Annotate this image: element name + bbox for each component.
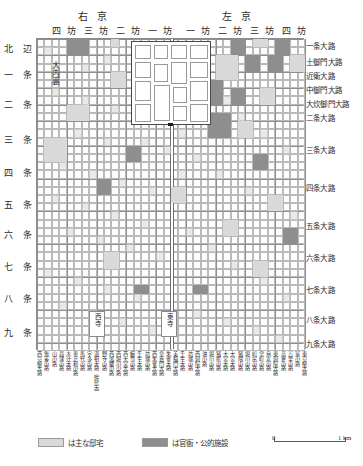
right-street-label-4: 大炊御門大路: [306, 98, 349, 109]
daidairi-compound-box: [190, 62, 208, 78]
bottom-street-label-26: 大宮大路: [223, 351, 228, 370]
legend-swatch-government: [142, 438, 168, 447]
bottom-street-label-13: 櫛笥小路: [130, 351, 135, 370]
bottom-street-label-29: 堀川小路: [244, 351, 249, 370]
bottom-street-label-5: 恵止利小路: [72, 351, 77, 375]
daidairi-compound-box: [154, 85, 170, 121]
bottom-street-label-19: 美福門大路: [173, 351, 178, 375]
bottom-street-label-1: 無差小路: [44, 351, 49, 370]
bottom-street-label-32: 烏丸小路: [266, 351, 271, 370]
scale-label-zero: 0: [272, 434, 275, 441]
row-label-5: 五 条: [4, 198, 36, 211]
bottom-street-label-33: 東洞院大路: [273, 351, 278, 375]
row-label-1: 一 条: [4, 68, 36, 81]
legend-item-government: は官衙・公的施設: [142, 436, 228, 448]
right-street-labels: 一条大路土御門大路近衛大路中御門大路大炊御門大路二条大路三条大路四条大路五条大路…: [306, 38, 363, 350]
daidairi-compound-box: [190, 45, 208, 59]
bo-column-label-6: 三 坊: [250, 24, 276, 37]
daidairi-palace-enclosure: [131, 41, 211, 125]
saiji-temple-label: 西寺: [93, 313, 100, 327]
daidairi-compound-box: [135, 81, 151, 101]
bottom-street-label-25: 猪熊小路: [215, 351, 220, 370]
bottom-street-label-8: 道祖大路（佐比大）: [94, 351, 99, 394]
bottom-street-label-7: 宇多小路: [87, 351, 92, 370]
daidairi-compound-box: [190, 104, 208, 122]
top-region-labels: 右京 左京: [0, 8, 363, 22]
bottom-street-label-0: 西京極大路: [37, 351, 42, 375]
bottom-street-label-17: 皇嘉門大路: [158, 351, 163, 375]
daidairi-compound-box: [154, 45, 168, 59]
legend-item-residence: は主な邸宅: [38, 436, 103, 448]
bottom-street-label-35: 万里小路: [287, 351, 292, 370]
bottom-street-label-22: 西洞院大路: [194, 351, 199, 375]
bottom-street-label-27: 大宮大路: [230, 351, 235, 370]
right-street-label-12: 九条大路: [306, 338, 335, 349]
row-label-4: 四 条: [4, 166, 36, 179]
right-street-label-7: 四条大路: [306, 182, 335, 193]
avenue-vertical-9: [305, 39, 306, 349]
daidairi-compound-box: [171, 45, 187, 59]
bottom-street-label-6: 馬代小路: [79, 351, 84, 370]
bottom-street-label-2: 山小路: [51, 351, 56, 365]
scale-bar: 0 1 km: [272, 434, 356, 452]
bottom-street-label-34: 高倉小路: [280, 351, 285, 370]
bo-column-label-4: 一 坊: [186, 24, 212, 37]
bo-column-label-2: 二 坊: [116, 24, 142, 37]
bo-column-label-3: 一 坊: [148, 24, 174, 37]
bottom-street-label-37: 東京極大路: [301, 351, 306, 375]
bo-column-labels: 四 坊三 坊二 坊一 坊一 坊二 坊三 坊四 坊: [0, 24, 363, 38]
map-overlay-layer: 大内裏 西寺 東寺: [37, 39, 303, 349]
daidairi-compound-box: [171, 62, 187, 84]
bottom-street-label-20: 壬生大路: [180, 351, 185, 370]
heiankyo-map: 大内裏 西寺 東寺: [36, 38, 304, 350]
bottom-street-label-18: 朱雀大路: [165, 351, 170, 370]
right-street-label-10: 七条大路: [306, 284, 335, 295]
row-label-0: 北 辺: [4, 42, 36, 55]
scale-bar-line: [274, 441, 346, 442]
daidairi-compound-box: [135, 62, 151, 78]
bo-column-label-0: 四 坊: [52, 24, 78, 37]
daidairi-compound-box: [173, 87, 187, 103]
right-street-label-2: 近衛大路: [306, 70, 335, 81]
bo-column-label-1: 三 坊: [84, 24, 110, 37]
daidairi-label: 大内裏: [50, 61, 58, 85]
daidairi-compound-box: [173, 106, 187, 121]
row-label-2: 二 条: [4, 98, 36, 111]
right-street-label-11: 八条大路: [306, 314, 335, 325]
bottom-street-label-31: 室町小路: [258, 351, 263, 370]
right-street-label-0: 一条大路: [306, 40, 335, 51]
bottom-street-label-36: 富小路: [294, 351, 299, 365]
right-street-label-8: 五条大路: [306, 220, 335, 231]
right-street-label-9: 六条大路: [306, 252, 335, 263]
legend: は主な邸宅 は官衙・公的施設: [38, 436, 268, 450]
bottom-street-label-4: 木辻大路: [65, 351, 70, 370]
legend-swatch-residence: [38, 438, 64, 447]
bottom-street-label-11: 西堀川小路: [115, 351, 120, 375]
daidairi-compound-box: [135, 45, 151, 59]
scale-label-one: 1 km: [338, 434, 351, 441]
bottom-street-label-24: 堀川小路: [208, 351, 213, 370]
bottom-street-label-3: 昌蒲小路: [58, 351, 63, 370]
bottom-street-label-23: 油小路: [201, 351, 206, 365]
bo-column-label-7: 四 坊: [282, 24, 308, 37]
region-label-ukyo: 右京: [78, 8, 116, 23]
bo-column-label-5: 二 坊: [218, 24, 244, 37]
bottom-street-label-12: 西大宮大路: [122, 351, 127, 375]
region-label-sakyo: 左京: [222, 8, 260, 23]
bottom-street-label-14: 壬生大路: [137, 351, 142, 370]
row-label-8: 八 条: [4, 292, 36, 305]
right-street-label-3: 中御門大路: [306, 84, 342, 95]
bottom-street-label-28: 猪隈小路: [237, 351, 242, 370]
right-street-label-6: 三条大路: [306, 144, 335, 155]
row-label-6: 六 条: [4, 228, 36, 241]
legend-label-residence: は主な邸宅: [68, 437, 103, 448]
daidairi-compound-box: [154, 64, 168, 82]
bottom-street-label-9: 野寺小路: [101, 351, 106, 370]
bottom-street-label-10: 西鴻臚小路: [108, 351, 113, 375]
suzakumon-gate-marker: [168, 123, 173, 126]
bottom-street-label-30: 町尻小路: [251, 351, 256, 370]
daidairi-compound-box: [135, 104, 151, 122]
bottom-street-label-16: 西朱雀大路: [151, 351, 156, 375]
legend-label-government: は官衙・公的施設: [172, 437, 228, 448]
toji-temple-label: 東寺: [165, 313, 172, 327]
